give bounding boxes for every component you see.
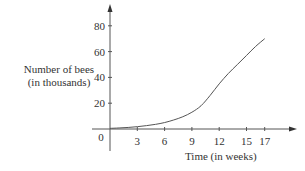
origin-label: 0 — [98, 131, 104, 143]
x-tick-label: 9 — [189, 135, 195, 147]
y-tick-label: 80 — [94, 20, 106, 32]
x-tick-label: 6 — [162, 135, 168, 147]
x-tick-label: 3 — [135, 135, 141, 147]
x-axis-arrow-icon — [289, 127, 297, 132]
y-axis-label: Number of bees (in thousands) — [14, 63, 104, 89]
y-axis-label-line1: Number of bees — [14, 63, 104, 76]
y-tick-label: 60 — [94, 46, 106, 58]
x-tick-label: 15 — [241, 135, 253, 147]
y-axis-label-line2: (in thousands) — [14, 76, 104, 89]
axes — [92, 4, 297, 151]
x-axis-label: Time (in weeks) — [185, 150, 257, 162]
data-line — [110, 39, 265, 129]
x-tick-label: 17 — [259, 135, 271, 147]
x-tick-label: 12 — [214, 135, 225, 147]
y-axis-arrow-icon — [108, 4, 113, 12]
y-tick-label: 20 — [94, 97, 106, 109]
